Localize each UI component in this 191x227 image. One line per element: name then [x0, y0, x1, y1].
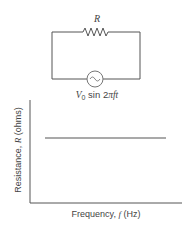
resistor-label: R [93, 13, 100, 24]
source-label: V0 sin 2πft [76, 89, 119, 101]
axes [30, 100, 182, 203]
x-axis-label: Frequency, f (Hz) [72, 209, 141, 219]
y-axis-label: Resistance, R (ohms) [13, 107, 23, 193]
circuit-wire [52, 32, 87, 79]
circuit-diagram: R V0 sin 2πft [52, 13, 140, 101]
chart: Frequency, f (Hz) Resistance, R (ohms) [13, 100, 182, 219]
figure: R V0 sin 2πft Frequency, f (Hz) Resistan… [0, 0, 191, 227]
